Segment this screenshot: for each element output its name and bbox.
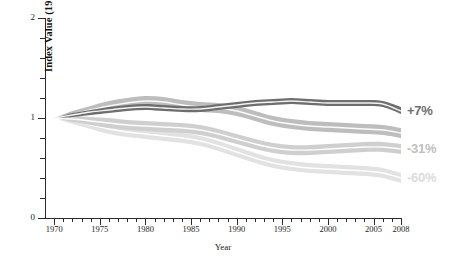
y-axis-major-tick [38,118,45,119]
y-axis-major-tick [38,218,45,219]
x-axis-tick-label: 2000 [308,225,348,234]
y-axis-tick-label: 1 [15,113,35,122]
series-end-label: -60% [407,170,436,185]
chart-figure: 012 197019751980198519901995200020052008… [0,0,453,271]
y-axis-tick-label: 2 [15,13,35,22]
x-axis-title: Year [45,242,401,252]
y-axis-title: Index Value (1970 = 1) [43,0,54,72]
x-axis-tick-label: 1980 [125,225,165,234]
x-axis-tick-label: 1990 [217,225,257,234]
y-axis-tick-label: 0 [15,213,35,222]
series-end-label: -31% [407,141,436,156]
plot-area: 012 197019751980198519901995200020052008… [45,18,400,218]
x-axis-tick-label: 1970 [34,225,74,234]
x-axis-tick-label: 1975 [80,225,120,234]
series-end-label: +7% [407,103,432,118]
x-axis-tick-label: 1985 [171,225,211,234]
series-band [54,98,401,118]
x-axis-tick-label: 2008 [381,225,421,234]
series-ribbons [45,18,401,219]
x-axis-tick-label: 1995 [262,225,302,234]
